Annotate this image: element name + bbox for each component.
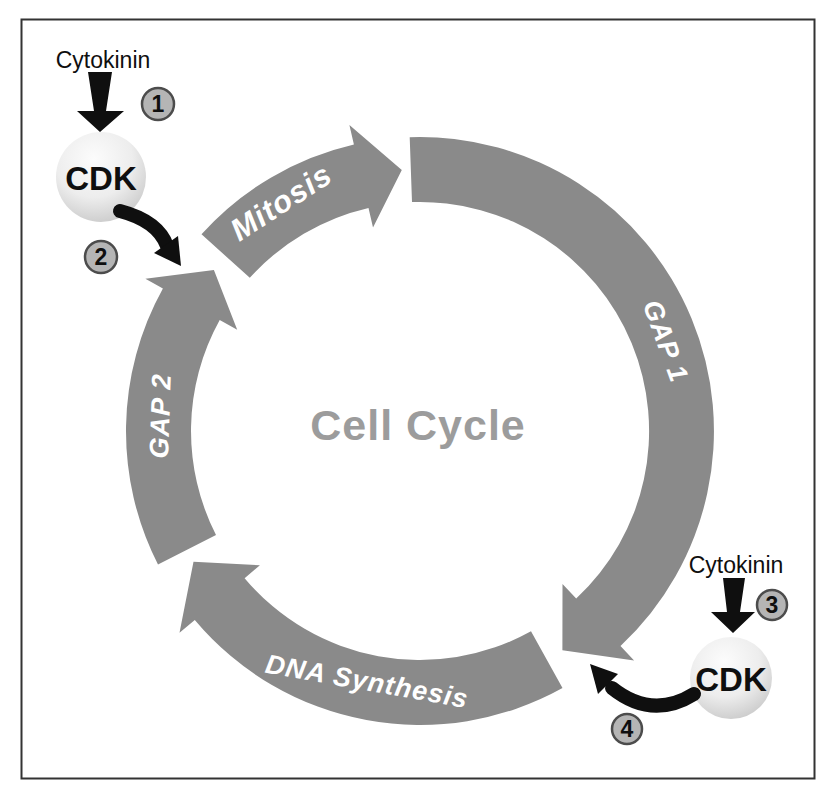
cdk-label: CDK: [695, 661, 767, 698]
cell-cycle-diagram: Mitosis GAP 1 DNA Synthesis GAP 2 Cell C…: [0, 0, 830, 798]
step-3-number: 3: [766, 592, 779, 618]
cytokinin-label: Cytokinin: [689, 552, 784, 578]
step-4-number: 4: [621, 716, 634, 742]
cytokinin-label: Cytokinin: [56, 47, 151, 73]
cycle-center-title: Cell Cycle: [310, 401, 526, 449]
cdk-label: CDK: [65, 160, 137, 197]
step-2-number: 2: [95, 244, 108, 270]
step-1-number: 1: [152, 91, 165, 117]
gap2-label: GAP 2: [144, 373, 177, 459]
